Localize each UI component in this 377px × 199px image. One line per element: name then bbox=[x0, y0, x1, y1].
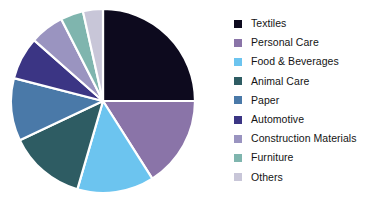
legend-swatch-icon bbox=[234, 96, 242, 104]
legend-swatch-icon bbox=[234, 58, 242, 66]
legend-item[interactable]: Automotive bbox=[232, 110, 377, 129]
legend-item-label: Animal Care bbox=[251, 76, 309, 87]
legend-item-label: Automotive bbox=[251, 114, 304, 125]
legend-item-label: Personal Care bbox=[251, 37, 319, 48]
legend-item-label: Paper bbox=[251, 95, 279, 106]
legend-item-label: Furniture bbox=[251, 152, 293, 163]
legend-item[interactable]: Personal Care bbox=[232, 33, 377, 52]
legend-item[interactable]: Construction Materials bbox=[232, 129, 377, 148]
pie-slice[interactable] bbox=[103, 9, 195, 101]
legend-swatch-icon bbox=[234, 173, 242, 181]
legend-item-label: Textiles bbox=[251, 18, 286, 29]
legend-item-label: Construction Materials bbox=[251, 133, 357, 144]
legend-item-label: Others bbox=[251, 172, 283, 183]
legend-swatch-icon bbox=[234, 154, 242, 162]
legend-item[interactable]: Food & Beverages bbox=[232, 52, 377, 71]
legend-swatch-icon bbox=[234, 77, 242, 85]
legend-item[interactable]: Furniture bbox=[232, 148, 377, 167]
chart-legend: TextilesPersonal CareFood & BeveragesAni… bbox=[232, 14, 377, 194]
legend-item-label: Food & Beverages bbox=[251, 56, 339, 67]
legend-swatch-icon bbox=[234, 20, 242, 28]
pie-chart-figure: TextilesPersonal CareFood & BeveragesAni… bbox=[0, 0, 377, 199]
legend-item[interactable]: Animal Care bbox=[232, 72, 377, 91]
legend-swatch-icon bbox=[234, 39, 242, 47]
legend-swatch-icon bbox=[234, 116, 242, 124]
chart-plot-area bbox=[0, 0, 228, 199]
legend-item[interactable]: Paper bbox=[232, 91, 377, 110]
pie-chart-svg bbox=[8, 6, 206, 196]
legend-item[interactable]: Textiles bbox=[232, 14, 377, 33]
legend-item[interactable]: Others bbox=[232, 168, 377, 187]
legend-swatch-icon bbox=[234, 135, 242, 143]
